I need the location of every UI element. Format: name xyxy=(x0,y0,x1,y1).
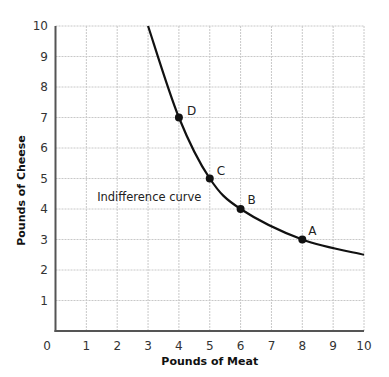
x-tick-label: 3 xyxy=(144,339,152,353)
x-tick-label: 0 xyxy=(43,339,51,353)
x-tick-label: 1 xyxy=(83,339,91,353)
tick-labels: 01234567891012345678910 xyxy=(33,19,372,353)
y-tick-label: 1 xyxy=(40,294,48,308)
point-label-b: B xyxy=(248,193,256,207)
chart-canvas: 01234567891012345678910 DCBA Indifferenc… xyxy=(0,0,389,377)
indifference-curve xyxy=(148,26,364,255)
y-tick-label: 8 xyxy=(40,80,48,94)
point-label-d: D xyxy=(187,104,196,118)
x-tick-label: 6 xyxy=(237,339,245,353)
x-tick-label: 2 xyxy=(113,339,121,353)
point-b xyxy=(237,205,245,213)
x-tick-label: 8 xyxy=(298,339,306,353)
y-tick-label: 3 xyxy=(40,233,48,247)
x-tick-label: 7 xyxy=(268,339,276,353)
y-tick-label: 9 xyxy=(40,50,48,64)
y-tick-label: 5 xyxy=(40,172,48,186)
point-label-c: C xyxy=(217,164,225,178)
y-tick-label: 6 xyxy=(40,141,48,155)
point-label-a: A xyxy=(308,224,317,238)
y-tick-label: 2 xyxy=(40,263,48,277)
x-tick-label: 10 xyxy=(356,339,371,353)
x-axis-title: Pounds of Meat xyxy=(161,355,258,368)
x-tick-label: 9 xyxy=(329,339,337,353)
point-a xyxy=(298,236,306,244)
y-tick-label: 10 xyxy=(33,19,48,33)
y-axis-title: Pounds of Cheese xyxy=(15,135,28,246)
y-tick-label: 7 xyxy=(40,111,48,125)
point-c xyxy=(206,175,214,183)
curve-annotation: Indifference curve xyxy=(97,190,201,204)
point-d xyxy=(175,114,183,122)
y-tick-label: 4 xyxy=(40,202,48,216)
data-points: DCBA xyxy=(175,104,317,244)
x-tick-label: 4 xyxy=(175,339,183,353)
x-tick-label: 5 xyxy=(206,339,214,353)
